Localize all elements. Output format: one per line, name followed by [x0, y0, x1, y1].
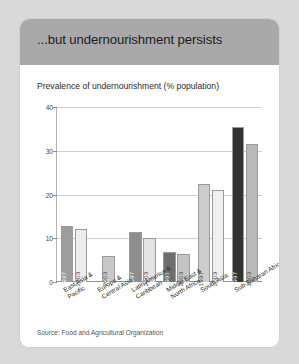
y-tick-label: 40: [46, 104, 53, 111]
figure-header-band: ...but undernourishment persists: [20, 19, 279, 65]
y-tick-mark: [53, 107, 57, 108]
chart-subtitle: Prevalence of undernourishment (% popula…: [37, 81, 219, 91]
y-tick-mark: [53, 282, 57, 283]
bar: 1997: [61, 226, 74, 282]
plot-area: 010203040 199720032003199720031997200319…: [57, 107, 262, 282]
bar: 2003: [246, 144, 259, 282]
figure-card: ...but undernourishment persists Prevale…: [20, 19, 279, 347]
y-tick-mark: [53, 238, 57, 239]
source-note: Source: Food and Agricultural Organizati…: [37, 329, 163, 336]
figure-title: ...but undernourishment persists: [37, 32, 222, 47]
bar: 1997: [129, 232, 142, 282]
gridline: [57, 107, 262, 108]
y-tick-mark: [53, 195, 57, 196]
bar: 2003: [212, 190, 225, 282]
y-tick-label: 20: [46, 191, 53, 198]
y-tick-label: 10: [46, 235, 53, 242]
bar: 1997: [232, 127, 245, 282]
y-tick-label: 30: [46, 147, 53, 154]
chart-panel: Prevalence of undernourishment (% popula…: [20, 65, 279, 347]
y-tick-mark: [53, 151, 57, 152]
